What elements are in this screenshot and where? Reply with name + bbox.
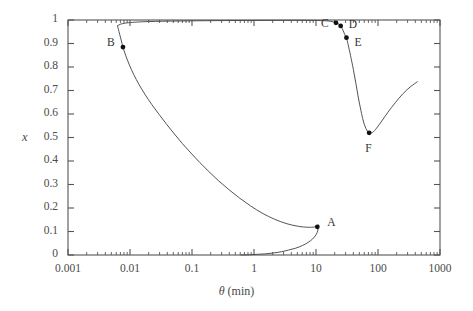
y-tick-label: 0.7 [0,83,58,95]
data-point-marker-f [367,130,372,135]
annotation-label-d: D [349,18,357,30]
y-tick-label: 1 [0,12,58,24]
y-tick-label: 0.1 [0,224,58,236]
data-curve [118,20,418,255]
y-tick-label: 0.8 [0,59,58,71]
annotation-label-a: A [327,216,335,228]
x-axis-title: θ (min) [0,284,473,299]
y-tick-label: 0.4 [0,153,58,165]
data-point-marker-b [121,45,126,50]
y-tick-label: 0 [0,247,58,259]
axis-frame [68,20,440,255]
data-point-marker-e [344,35,349,40]
data-point-marker-d [338,23,343,28]
y-major-ticks [68,20,440,255]
annotation-label-b: B [107,36,115,48]
data-point-marker-a [315,224,320,229]
y-tick-label: 0.3 [0,177,58,189]
chart-figure: 0.0010.010.11101001000 00.10.20.30.40.50… [0,0,473,311]
y-tick-label: 0.5 [0,130,58,142]
x-axis-symbol: θ [219,284,225,298]
y-axis-title: x [22,130,28,145]
y-tick-label: 0.6 [0,106,58,118]
x-major-ticks [68,20,440,255]
x-minor-ticks [87,20,437,255]
data-point-marker-c [334,20,339,25]
annotation-label-f: F [365,142,371,154]
data-point-markers [121,20,372,229]
x-axis-unit: (min) [228,284,255,298]
x-tick-label: 1000 [0,262,473,274]
annotation-label-c: C [321,17,329,29]
y-tick-label: 0.2 [0,200,58,212]
annotation-label-e: E [354,36,361,48]
y-tick-label: 0.9 [0,36,58,48]
